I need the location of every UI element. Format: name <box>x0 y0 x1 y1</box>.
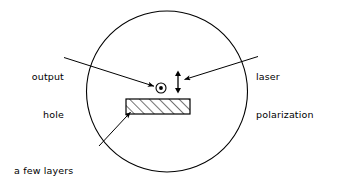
label-masking-tapes-line1: a few layers <box>14 165 144 178</box>
label-output-hole-line2: hole <box>0 109 64 122</box>
label-masking-tapes: a few layers of masking tapes <box>14 140 144 184</box>
label-laser-polarization: laser polarization <box>256 46 339 146</box>
hatched-tape-rectangle <box>126 99 190 114</box>
optics-schematic-figure: output hole laser polarization a few lay… <box>0 0 339 184</box>
leader-line-laser-polarization <box>185 57 259 80</box>
label-laser-polarization-line2: polarization <box>256 109 339 122</box>
label-output-hole: output hole <box>0 46 64 146</box>
label-laser-polarization-line1: laser <box>256 71 339 84</box>
label-output-hole-line1: output <box>0 71 64 84</box>
output-hole-symbol <box>156 83 166 93</box>
polarization-double-arrow <box>175 71 181 94</box>
leader-line-output-hole <box>64 58 154 87</box>
